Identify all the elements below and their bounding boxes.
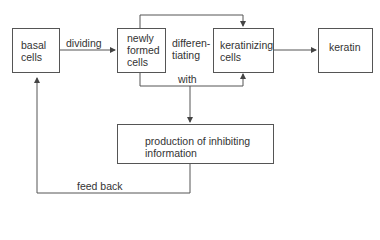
node-label: keratin <box>329 41 361 53</box>
node-label: newly formed cells <box>127 32 160 68</box>
node-newly-formed-cells: newly formed cells <box>117 28 166 73</box>
edge-label-feedback: feed back <box>77 180 123 192</box>
node-label: basal cells <box>21 39 46 63</box>
node-basal-cells: basal cells <box>12 28 60 73</box>
node-keratin: keratin <box>318 28 373 73</box>
node-production-inhibiting-information: production of inhibiting information <box>117 124 274 164</box>
node-label: keratinizing cells <box>220 39 273 63</box>
node-keratinizing-cells: keratinizing cells <box>213 28 274 73</box>
edge-label-differentiating: differen- tiating <box>172 37 210 61</box>
edge-label-with: with <box>178 73 197 85</box>
node-label: production of inhibiting information <box>145 135 250 159</box>
edge-label-dividing: dividing <box>66 37 102 49</box>
